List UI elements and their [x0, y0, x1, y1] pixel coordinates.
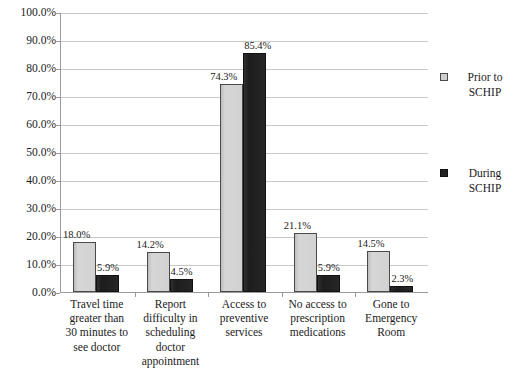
x-axis-category-label: Gone toEmergencyRoom: [354, 297, 428, 340]
x-axis-label-line: preventive: [207, 311, 281, 325]
y-axis-tick-label: 90.0%: [0, 35, 56, 47]
legend-label-line: SCHIP: [451, 181, 519, 196]
x-axis-category-label: Access topreventiveservices: [207, 297, 281, 340]
legend-label-during: DuringSCHIP: [451, 166, 519, 195]
legend-entry-prior: Prior toSCHIP: [440, 70, 531, 99]
y-axis-tick-label: 50.0%: [0, 147, 56, 159]
x-axis-category-label: Reportdifficulty inschedulingdoctorappoi…: [134, 297, 208, 368]
y-axis-tick-label: 70.0%: [0, 91, 56, 103]
legend-entry-during: DuringSCHIP: [440, 166, 531, 195]
bar-prior: [147, 252, 170, 292]
bar-group: 21.1%5.9%: [282, 13, 356, 292]
bar-group: 14.5%2.3%: [355, 13, 429, 292]
x-axis-label-line: appointment: [134, 354, 208, 368]
x-axis-label-line: see doctor: [60, 340, 134, 354]
bar-group: 74.3%85.4%: [208, 13, 282, 292]
x-axis-label-line: Travel time: [60, 297, 134, 311]
x-axis-label-line: No access to: [281, 297, 355, 311]
bar-during: [170, 279, 193, 292]
x-axis-label-line: Access to: [207, 297, 281, 311]
bar-prior: [73, 242, 96, 292]
y-axis-tick-label: 20.0%: [0, 231, 56, 243]
x-axis-label-line: doctor: [134, 340, 208, 354]
bar-value-label: 18.0%: [63, 229, 90, 240]
x-axis-category-labels: Travel timegreater than30 minutes tosee …: [60, 297, 428, 385]
x-axis-label-line: Room: [354, 325, 428, 339]
bar-value-label: 2.3%: [391, 273, 413, 284]
legend-swatch-icon-prior: [440, 73, 448, 81]
y-axis: 100.0%90.0%80.0%70.0%60.0%50.0%40.0%30.0…: [0, 13, 56, 293]
x-axis-label-line: services: [207, 325, 281, 339]
x-axis-label-line: 30 minutes to: [60, 325, 134, 339]
bar-value-label: 85.4%: [244, 40, 271, 51]
bar-during: [243, 53, 266, 292]
y-axis-tick-mark: [55, 293, 60, 294]
legend-label-line: SCHIP: [451, 85, 519, 100]
bar-prior: [294, 233, 317, 292]
bar-during: [96, 275, 119, 292]
bar-value-label: 14.2%: [137, 239, 164, 250]
bar-prior: [367, 251, 390, 292]
plot-area: 18.0%5.9%14.2%4.5%74.3%85.4%21.1%5.9%14.…: [60, 13, 428, 293]
x-axis-label-line: prescription: [281, 311, 355, 325]
y-axis-tick-label: 30.0%: [0, 203, 56, 215]
x-axis-category-label: Travel timegreater than30 minutes tosee …: [60, 297, 134, 354]
y-axis-tick-label: 0.0%: [0, 287, 56, 299]
y-axis-tick-label: 80.0%: [0, 63, 56, 75]
x-axis-label-line: scheduling: [134, 325, 208, 339]
bar-during: [317, 275, 340, 292]
bar-value-label: 14.5%: [357, 238, 384, 249]
bar-value-label: 21.1%: [284, 220, 311, 231]
legend-label-line: During: [451, 166, 519, 181]
bar-value-label: 5.9%: [318, 262, 340, 273]
bar-value-label: 5.9%: [97, 262, 119, 273]
x-axis-label-line: greater than: [60, 311, 134, 325]
x-axis-label-line: difficulty in: [134, 311, 208, 325]
bar-group: 14.2%4.5%: [135, 13, 209, 292]
legend-label-prior: Prior toSCHIP: [451, 70, 519, 99]
x-axis-label-line: Gone to: [354, 297, 428, 311]
y-axis-tick-label: 40.0%: [0, 175, 56, 187]
x-axis-category-label: No access toprescriptionmedications: [281, 297, 355, 340]
x-axis-label-line: medications: [281, 325, 355, 339]
bar-during: [390, 286, 413, 292]
x-axis-label-line: Report: [134, 297, 208, 311]
x-axis-label-line: Emergency: [354, 311, 428, 325]
bar-chart: 100.0%90.0%80.0%70.0%60.0%50.0%40.0%30.0…: [0, 0, 531, 386]
y-axis-tick-label: 10.0%: [0, 259, 56, 271]
bar-prior: [220, 84, 243, 292]
y-axis-tick-label: 100.0%: [0, 7, 56, 19]
bar-group: 18.0%5.9%: [61, 13, 135, 292]
legend-swatch-icon-during: [440, 169, 448, 177]
bar-value-label: 4.5%: [171, 266, 193, 277]
y-axis-tick-label: 60.0%: [0, 119, 56, 131]
bar-value-label: 74.3%: [210, 71, 237, 82]
legend-label-line: Prior to: [451, 70, 519, 85]
